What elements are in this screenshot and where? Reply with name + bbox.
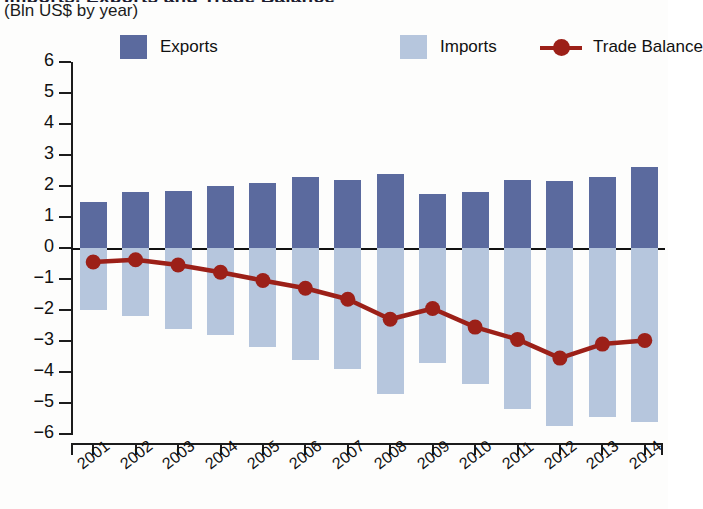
y-tick: 3: [59, 154, 71, 156]
y-tick: −6: [59, 433, 71, 435]
legend-item-imports[interactable]: Imports: [400, 34, 497, 60]
x-axis: 2001200220032004200520062007200820092010…: [71, 443, 665, 509]
y-tick: −5: [59, 402, 71, 404]
y-tick-label: 3: [20, 143, 54, 164]
legend-label: Imports: [440, 37, 497, 57]
y-tick-label: −2: [20, 298, 54, 319]
trade-balance-marker-2009: [425, 301, 440, 316]
y-tick: 5: [59, 92, 71, 94]
trade-balance-marker-2001: [86, 255, 101, 270]
y-tick-label: −6: [20, 422, 54, 443]
y-tick-label: −4: [20, 360, 54, 381]
y-tick: −4: [59, 371, 71, 373]
y-tick-label: 6: [20, 50, 54, 71]
legend-item-trade-balance[interactable]: Trade Balance: [540, 34, 703, 60]
y-tick-label: 0: [20, 236, 54, 257]
trade-balance-marker-2008: [383, 312, 398, 327]
chart-legend: ExportsImportsTrade Balance: [120, 34, 660, 60]
y-tick-label: 2: [20, 174, 54, 195]
y-tick-label: −3: [20, 329, 54, 350]
trade-balance-marker-2005: [255, 273, 270, 288]
trade-balance-marker-2003: [171, 258, 186, 273]
square-swatch-icon: [400, 35, 427, 59]
line-marker-icon: [540, 35, 582, 59]
trade-balance-marker-2002: [128, 252, 143, 267]
trade-balance-marker-2010: [468, 320, 483, 335]
square-swatch-icon: [120, 35, 147, 59]
trade-balance-marker-2012: [552, 351, 567, 366]
trade-balance-marker-2013: [595, 337, 610, 352]
y-tick-label: −5: [20, 391, 54, 412]
legend-label: Trade Balance: [593, 37, 703, 57]
y-tick: 1: [59, 216, 71, 218]
y-tick: 6: [59, 61, 71, 63]
y-tick-label: −1: [20, 267, 54, 288]
y-tick: −2: [59, 309, 71, 311]
y-tick-label: 4: [20, 112, 54, 133]
y-tick-label: 5: [20, 81, 54, 102]
y-tick: 2: [59, 185, 71, 187]
y-tick: 0: [59, 247, 71, 249]
trade-balance-line: [71, 62, 665, 443]
x-axis-left-cap: [71, 443, 73, 455]
trade-balance-marker-2011: [510, 332, 525, 347]
y-tick-label: 1: [20, 205, 54, 226]
plot-area: 6543210−1−2−3−4−5−6: [71, 62, 665, 443]
legend-label: Exports: [160, 37, 218, 57]
y-tick: 4: [59, 123, 71, 125]
trade-balance-polyline: [93, 260, 645, 358]
legend-item-exports[interactable]: Exports: [120, 34, 218, 60]
trade-balance-marker-2004: [213, 265, 228, 280]
trade-balance-marker-2006: [298, 281, 313, 296]
trade-balance-marker-2007: [340, 292, 355, 307]
trade-balance-marker-2014: [637, 333, 652, 348]
y-tick: −1: [59, 278, 71, 280]
chart-subtitle: (Bln US$ by year): [4, 1, 138, 21]
y-tick: −3: [59, 340, 71, 342]
